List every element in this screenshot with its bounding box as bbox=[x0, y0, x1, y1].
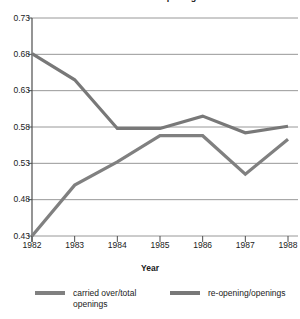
y-axis-tick-label: 0.63 bbox=[4, 86, 30, 95]
legend-item-re-opening: re-opening/openings bbox=[170, 288, 286, 299]
legend-label: re-opening/openings bbox=[208, 288, 286, 299]
x-axis-tick-labels: 1982198319841985198619871988 bbox=[0, 241, 300, 257]
line-chart: Trends in Job Openings 0.730.680.630.580… bbox=[0, 0, 300, 319]
legend-label: carried over/total openings bbox=[73, 288, 159, 309]
y-axis-tick-labels: 0.730.680.630.580.530.480.43 bbox=[0, 0, 30, 260]
x-axis-tick-label: 1987 bbox=[225, 241, 265, 250]
x-axis-tick-label: 1983 bbox=[55, 241, 95, 250]
x-axis-tick-label: 1988 bbox=[268, 241, 300, 250]
legend-swatch-icon bbox=[170, 291, 200, 295]
x-axis-tick-label: 1985 bbox=[140, 241, 180, 250]
y-axis-tick-label: 0.53 bbox=[4, 159, 30, 168]
x-axis-label: Year bbox=[0, 263, 300, 273]
x-axis-tick-label: 1986 bbox=[183, 241, 223, 250]
y-axis-tick-label: 0.58 bbox=[4, 123, 30, 132]
y-axis-tick-label: 0.68 bbox=[4, 50, 30, 59]
y-axis-tick-label: 0.73 bbox=[4, 14, 30, 23]
chart-legend: carried over/total openings re-opening/o… bbox=[0, 288, 300, 318]
y-axis-tick-label: 0.43 bbox=[4, 232, 30, 241]
x-axis-tick-label: 1982 bbox=[12, 241, 52, 250]
plot-area: 0.730.680.630.580.530.480.43 bbox=[0, 0, 300, 260]
legend-item-carried-over: carried over/total openings bbox=[35, 288, 159, 309]
legend-swatch-icon bbox=[35, 291, 65, 295]
y-axis-tick-label: 0.48 bbox=[4, 195, 30, 204]
plot-svg bbox=[0, 0, 300, 260]
x-axis-tick-label: 1984 bbox=[97, 241, 137, 250]
